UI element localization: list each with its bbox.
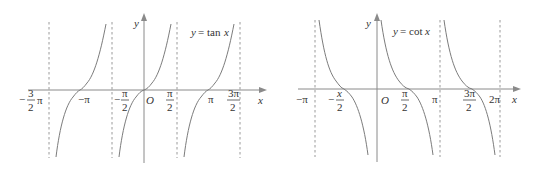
cot-y-axis-arrow-icon (374, 13, 380, 21)
trig-graphs: y x O y = tan x − 3 2 π −π − π 2 π (0, 0, 533, 175)
cot-tick-pi-2: π 2 (401, 87, 409, 113)
cot-title: y = cot x (392, 25, 430, 37)
cot-x-label: x (511, 93, 517, 105)
cot-origin-label: O (381, 94, 389, 106)
tan-tick-neg-3pi-2: − 3 2 π (19, 87, 43, 113)
cot-branch-1 (319, 20, 368, 155)
svg-text:y: y (190, 26, 196, 38)
cot-tick-neg-pi-2: − x 2 (328, 87, 344, 113)
svg-text:3π: 3π (464, 87, 476, 99)
cot-tick-neg-pi: −π (296, 93, 308, 105)
svg-text:=: = (400, 25, 406, 37)
svg-text:2: 2 (122, 101, 128, 113)
tan-y-axis-arrow-icon (141, 13, 147, 21)
tan-title: y = tan x (190, 26, 229, 38)
tan-graph: y x O y = tan x − 3 2 π −π − π 2 π (19, 13, 267, 163)
svg-text:2: 2 (337, 101, 343, 113)
svg-text:y: y (392, 25, 398, 37)
svg-text:x: x (424, 25, 430, 37)
svg-text:=: = (198, 26, 204, 38)
tan-tick-3pi-2: 3π 2 (227, 87, 240, 113)
svg-text:2: 2 (167, 101, 173, 113)
cot-y-label: y (365, 17, 371, 29)
svg-text:2: 2 (28, 101, 34, 113)
svg-text:cot: cot (409, 25, 422, 37)
svg-text:−: − (19, 93, 25, 105)
svg-text:2: 2 (230, 101, 236, 113)
svg-text:x: x (223, 26, 229, 38)
svg-text:π: π (37, 94, 43, 106)
svg-text:−: − (328, 93, 334, 105)
tan-tick-neg-pi: −π (78, 93, 90, 105)
tan-y-label: y (133, 17, 139, 29)
tan-x-label: x (257, 94, 263, 106)
svg-text:π: π (122, 87, 128, 99)
cot-graph: y x O y = cot x −π − x 2 π 2 π 3π (296, 13, 521, 162)
tan-tick-neg-pi-2: − π 2 (114, 87, 129, 113)
cot-tick-2pi: 2π (489, 93, 501, 105)
svg-text:x: x (336, 87, 342, 99)
svg-text:2: 2 (466, 101, 472, 113)
tan-tick-pi-2: π 2 (166, 87, 174, 113)
tan-x-axis-arrow-icon (259, 87, 267, 93)
cot-tick-3pi-2: 3π 2 (463, 87, 476, 113)
tan-tick-pi: π (208, 93, 214, 105)
svg-text:3: 3 (28, 87, 34, 99)
cot-tick-pi: π (432, 93, 438, 105)
svg-text:−: − (114, 93, 120, 105)
svg-text:π: π (167, 87, 173, 99)
svg-text:3π: 3π (228, 87, 240, 99)
cot-x-axis-arrow-icon (513, 86, 521, 92)
svg-text:tan: tan (207, 26, 221, 38)
tan-origin-label: O (146, 94, 154, 106)
svg-text:π: π (402, 87, 408, 99)
svg-text:2: 2 (402, 101, 408, 113)
